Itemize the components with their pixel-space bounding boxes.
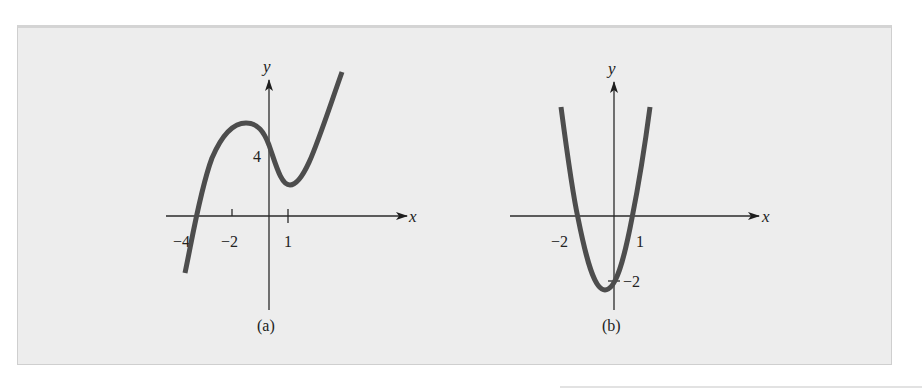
chart-b-curve [561,107,650,290]
chart-b-caption: (b) [602,317,621,335]
chart-a-tick-label-minus2: −2 [221,233,238,250]
chart-a-tick-label-y4: 4 [253,148,261,165]
chart-b: x y −2 1 −2 (b) [510,59,770,335]
chart-a-tick-label-1: 1 [284,233,292,250]
chart-a-tick-label-minus4: −4 [173,233,190,250]
chart-a-y-label: y [261,57,271,76]
figure-graphs: x y −4 −2 1 4 (a) x y −2 1 −2 (b) [0,0,922,391]
chart-b-y-label: y [606,59,616,78]
chart-a-x-label: x [408,207,417,226]
chart-a-caption: (a) [257,317,275,335]
chart-b-x-label: x [761,207,770,226]
chart-b-tick-label-y-minus2: −2 [623,273,640,290]
chart-a: x y −4 −2 1 4 (a) [166,57,417,335]
chart-a-curve [185,72,342,273]
chart-b-tick-label-minus2: −2 [551,233,568,250]
chart-b-tick-label-1: 1 [636,233,644,250]
